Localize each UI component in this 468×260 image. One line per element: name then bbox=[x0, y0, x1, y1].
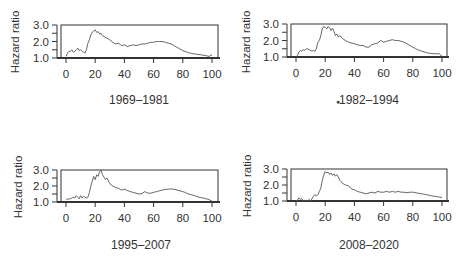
panel-1995-2007: Hazard ratio 1995–2007 0204060801001.02.… bbox=[12, 156, 222, 252]
panel-1969-1981: Hazard ratio 1969–1981 0204060801001.02.… bbox=[9, 11, 222, 107]
x-tick-label: 100 bbox=[432, 211, 451, 223]
y-tick-label: 3.0 bbox=[33, 19, 49, 31]
x-tick-label: 40 bbox=[348, 211, 361, 223]
hazard-ratio-line bbox=[296, 27, 442, 58]
panel-title: 2008–2020 bbox=[339, 238, 399, 252]
panel-title: 1969–1981 bbox=[109, 93, 169, 107]
panel-2008-2020: Hazard ratio 2008–2020 0204060801001.02.… bbox=[241, 155, 452, 252]
plot-area: 0204060801001.02.03.0 bbox=[263, 18, 452, 79]
y-tick-label: 3.0 bbox=[33, 164, 49, 176]
plot-area: 0204060801001.02.03.0 bbox=[33, 19, 222, 80]
y-tick-label: 1.0 bbox=[33, 196, 49, 208]
y-tick-label: 2.0 bbox=[33, 36, 49, 48]
panel-title: 1982–1994 bbox=[339, 93, 399, 107]
panel-title: 1995–2007 bbox=[111, 238, 171, 252]
x-tick-label: 20 bbox=[319, 67, 332, 79]
y-tick-label: 3.0 bbox=[263, 18, 279, 30]
x-tick-label: 0 bbox=[293, 67, 299, 79]
y-tick-label: 3.0 bbox=[263, 163, 279, 175]
y-axis-label: Hazard ratio bbox=[241, 155, 253, 218]
y-axis-label: Hazard ratio bbox=[12, 156, 24, 219]
x-tick-label: 0 bbox=[293, 211, 299, 223]
x-tick-label: 60 bbox=[377, 67, 390, 79]
hazard-ratio-line bbox=[296, 171, 442, 201]
x-tick-label: 20 bbox=[89, 68, 102, 80]
panel-1982-1994: Hazard ratio 1982–1994 ● 0204060801001.0… bbox=[240, 11, 452, 107]
x-tick-label: 100 bbox=[202, 68, 221, 80]
x-tick-label: 40 bbox=[118, 212, 131, 224]
stray-dot-mark: ● bbox=[336, 98, 340, 105]
y-tick-label: 2.0 bbox=[263, 35, 279, 47]
x-tick-label: 0 bbox=[63, 212, 69, 224]
x-tick-label: 20 bbox=[319, 211, 332, 223]
x-tick-label: 40 bbox=[348, 67, 361, 79]
y-tick-label: 1.0 bbox=[33, 52, 49, 64]
hazard-ratio-figure: Hazard ratio 1969–1981 0204060801001.02.… bbox=[0, 0, 468, 260]
plot-frame bbox=[291, 169, 447, 201]
y-axis-label: Hazard ratio bbox=[240, 11, 252, 74]
hazard-ratio-line bbox=[66, 170, 212, 201]
y-tick-label: 2.0 bbox=[263, 179, 279, 191]
plot-area: 0204060801001.02.03.0 bbox=[263, 163, 452, 223]
x-tick-label: 0 bbox=[63, 68, 69, 80]
x-tick-label: 80 bbox=[406, 211, 419, 223]
x-tick-label: 60 bbox=[147, 68, 160, 80]
y-tick-label: 1.0 bbox=[263, 51, 279, 63]
x-tick-label: 60 bbox=[377, 211, 390, 223]
x-tick-label: 80 bbox=[176, 68, 189, 80]
x-tick-label: 100 bbox=[432, 67, 451, 79]
x-tick-label: 60 bbox=[147, 212, 160, 224]
hazard-ratio-line bbox=[66, 30, 212, 57]
y-axis-label: Hazard ratio bbox=[9, 11, 21, 74]
plot-area: 0204060801001.02.03.0 bbox=[33, 164, 222, 224]
y-tick-label: 2.0 bbox=[33, 180, 49, 192]
x-tick-label: 80 bbox=[406, 67, 419, 79]
x-tick-label: 100 bbox=[202, 212, 221, 224]
x-tick-label: 20 bbox=[89, 212, 102, 224]
x-tick-label: 40 bbox=[118, 68, 131, 80]
x-tick-label: 80 bbox=[176, 212, 189, 224]
y-tick-label: 1.0 bbox=[263, 195, 279, 207]
